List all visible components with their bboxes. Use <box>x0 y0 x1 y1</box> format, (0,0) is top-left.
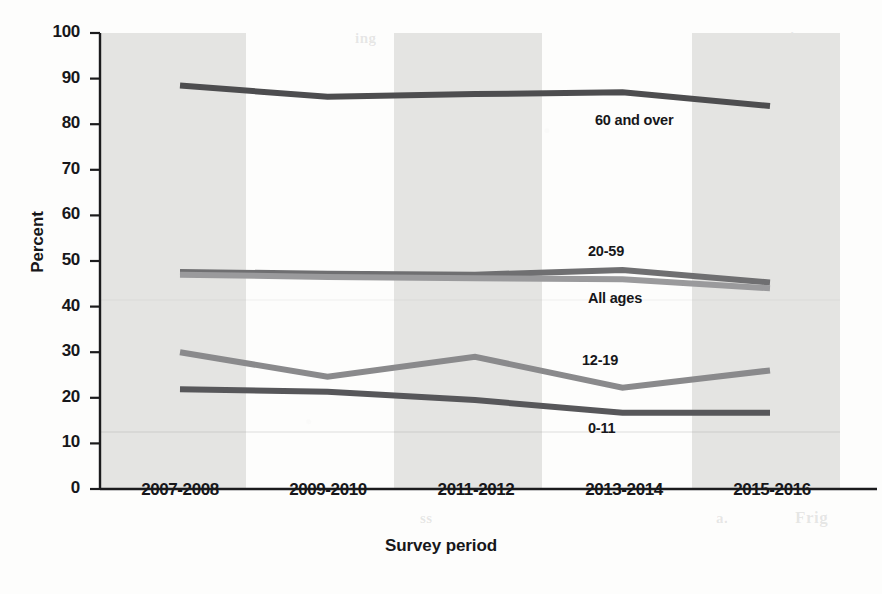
x-tick-label-2013-2014: 2013-2014 <box>550 480 698 500</box>
x-tick-label-2009-2010: 2009-2010 <box>254 480 402 500</box>
series-label-all-ages: All ages <box>588 290 642 306</box>
y-tick-label-80: 80 <box>22 113 80 133</box>
x-tick-label-2015-2016: 2015-2016 <box>698 480 846 500</box>
series-label-0-11: 0-11 <box>588 420 615 436</box>
x-tick-label-2011-2012: 2011-2012 <box>402 480 550 500</box>
x-tick-label-2007-2008: 2007-2008 <box>106 480 254 500</box>
y-tick-marks <box>90 33 100 489</box>
y-tick-label-60: 60 <box>22 204 80 224</box>
line-chart-svg <box>0 0 882 594</box>
series-label-12-19: 12-19 <box>582 352 618 368</box>
y-axis-title: Percent <box>28 182 48 302</box>
series-label-60-and-over: 60 and over <box>595 112 673 128</box>
y-tick-label-20: 20 <box>22 387 80 407</box>
y-tick-label-30: 30 <box>22 341 80 361</box>
y-tick-label-0: 0 <box>22 478 80 498</box>
x-axis-title: Survey period <box>0 536 882 556</box>
y-tick-label-40: 40 <box>22 296 80 316</box>
series-label-20-59: 20-59 <box>588 243 624 259</box>
y-tick-label-70: 70 <box>22 159 80 179</box>
y-tick-label-90: 90 <box>22 68 80 88</box>
y-tick-label-50: 50 <box>22 250 80 270</box>
y-tick-label-10: 10 <box>22 432 80 452</box>
chart-page: ing nd on us in 3.9 2.1 ss a. Frig <box>0 0 882 594</box>
y-tick-label-100: 100 <box>22 22 80 42</box>
plot-area: Percent 100 90 80 70 60 50 40 30 20 10 0… <box>0 0 882 594</box>
